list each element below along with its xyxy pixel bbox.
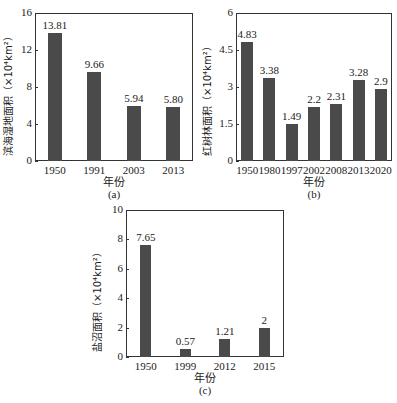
bar-value-label: 2.9 [361,76,397,87]
y-tick-mark [126,298,129,299]
y-axis-label: 红树林面积（×10⁴km²） [203,41,213,156]
bar-value-label: 13.81 [35,20,75,31]
x-tick-label: 1950 [129,361,163,372]
y-tick-mark [236,50,239,51]
bar [219,339,230,357]
y-tick-mark [126,357,129,358]
y-tick-mark [35,161,38,162]
bar [127,106,141,161]
bar [259,328,270,357]
y-tick-label: 0 [8,155,32,166]
bar-value-label: 9.66 [74,59,114,70]
y-tick-mark [35,124,38,125]
y-tick-label: 0 [99,351,123,362]
bar [241,42,253,161]
y-tick-mark [35,13,38,14]
x-tick-label: 2012 [208,361,242,372]
bar [375,89,387,161]
y-tick-mark [126,269,129,270]
bar [140,245,151,357]
bar-value-label: 0.57 [165,336,205,347]
y-tick-label: 6 [209,7,233,18]
y-tick-label: 8 [99,233,123,244]
y-tick-mark [236,13,239,14]
y-tick-mark [35,87,38,88]
bar [48,33,62,161]
x-tick-label: 1991 [77,165,111,176]
bar [308,107,320,161]
y-tick-label: 10 [99,204,123,215]
bar-value-label: 2 [244,315,284,326]
subfigure-caption: (a) [99,189,129,200]
y-tick-mark [236,124,239,125]
bar [87,72,101,161]
x-tick-label: 2020 [364,165,397,176]
x-tick-label: 1999 [168,361,202,372]
bar [180,349,191,357]
subfigure-caption: (b) [299,189,329,200]
x-axis-label: 年份 [84,177,144,188]
y-axis-label: 盐沼面积（×10⁴km²） [93,247,103,352]
y-tick-label: 16 [8,7,32,18]
bar [353,80,365,161]
bar [330,104,342,161]
bar [286,124,298,161]
x-tick-label: 2015 [247,361,281,372]
bar-value-label: 5.80 [153,94,193,105]
x-tick-label: 2013 [156,165,190,176]
x-tick-label: 2003 [117,165,151,176]
bar-value-label: 1.21 [205,326,245,337]
bar-value-label: 3.38 [249,65,289,76]
bar [166,107,180,161]
x-axis-label: 年份 [284,177,344,188]
y-tick-mark [126,210,129,211]
y-axis-label: 滨海湿地面积（×10⁴km²） [4,31,14,156]
bar-value-label: 7.65 [126,232,166,243]
y-tick-mark [236,87,239,88]
x-tick-label: 1950 [38,165,72,176]
y-tick-mark [126,328,129,329]
bar-value-label: 4.83 [227,29,267,40]
bar-value-label: 5.94 [114,93,154,104]
bar-value-label: 1.49 [272,111,312,122]
subfigure-caption: (c) [190,385,220,396]
y-tick-mark [35,50,38,51]
y-tick-mark [236,161,239,162]
x-axis-label: 年份 [175,373,235,384]
bar-value-label: 2.31 [316,91,356,102]
